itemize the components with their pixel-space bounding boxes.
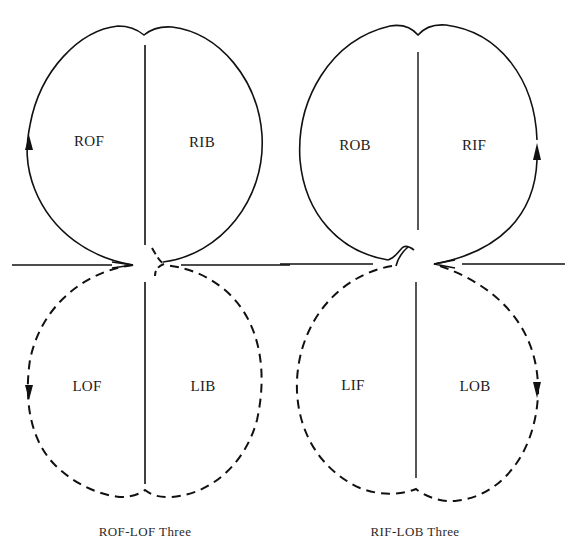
- rif-lob-three-figure: [280, 25, 565, 501]
- lof-direction-arrow-icon: [25, 385, 33, 400]
- figure-skating-three-turn-diagram: ROF RIB LOF LIB ROF-LOF Three ROB RIF LI…: [0, 0, 572, 545]
- label-rif: RIF: [462, 137, 486, 154]
- left-turn-cusp: [152, 248, 164, 276]
- label-lof: LOF: [72, 378, 101, 395]
- rif-direction-arrow-icon: [533, 143, 541, 160]
- rof-lof-three-figure: [12, 26, 290, 497]
- diagram-canvas: [0, 0, 572, 545]
- label-lib: LIB: [190, 378, 215, 395]
- label-lob: LOB: [460, 378, 491, 395]
- lif-lob-tracing-dashed: [297, 264, 538, 501]
- rof-direction-arrow-icon: [25, 135, 33, 150]
- caption-rif-lob-three: RIF-LOB Three: [370, 524, 459, 540]
- label-rob: ROB: [339, 137, 371, 154]
- lob-direction-arrow-icon: [533, 382, 541, 398]
- right-turn-cusp: [388, 247, 414, 266]
- label-lif: LIF: [341, 377, 364, 394]
- caption-rof-lof-three: ROF-LOF Three: [99, 524, 192, 540]
- label-rof: ROF: [74, 133, 104, 150]
- label-rib: RIB: [189, 134, 215, 151]
